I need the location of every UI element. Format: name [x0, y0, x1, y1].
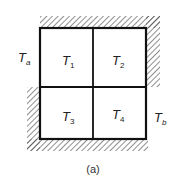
figure-caption: (a) — [86, 163, 99, 175]
top-hatch — [40, 16, 160, 28]
boundary-label-tb: Tb — [154, 110, 167, 127]
bottom-hatch — [27, 139, 148, 151]
boundary-label-ta: Ta — [18, 50, 31, 67]
right-hatch — [146, 16, 160, 87]
grid-diagram: T1 T2 T3 T4 Ta Tb (a) — [0, 0, 193, 196]
